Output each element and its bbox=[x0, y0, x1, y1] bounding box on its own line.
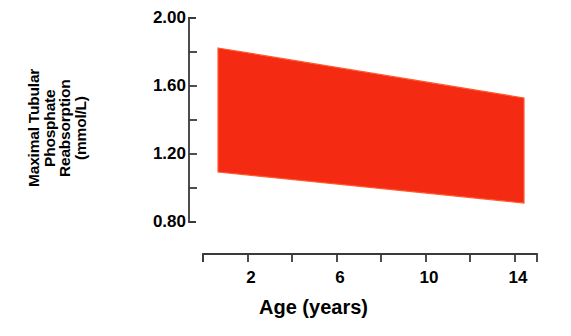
chart-figure: Maximal Tubular Phosphate Reabsorption (… bbox=[0, 0, 571, 336]
x-tick-label-2: 2 bbox=[246, 268, 255, 288]
x-axis-spine bbox=[203, 254, 537, 262]
band-polygon bbox=[218, 48, 524, 203]
x-axis-tick-labels: 2 6 10 14 bbox=[0, 268, 571, 294]
x-tick-label-14: 14 bbox=[509, 268, 528, 288]
x-tick-label-6: 6 bbox=[335, 268, 344, 288]
x-axis-title: Age (years) bbox=[0, 296, 571, 319]
y-axis-spine bbox=[189, 18, 197, 222]
x-axis-title-text: Age (years) bbox=[259, 296, 368, 319]
reference-range-band bbox=[218, 48, 524, 203]
x-tick-label-10: 10 bbox=[420, 268, 439, 288]
